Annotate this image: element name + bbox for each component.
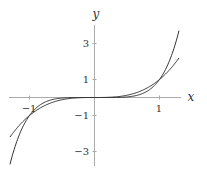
y-tick-label-neg1: −1 — [74, 110, 89, 121]
y-tick-label-1: 1 — [83, 74, 89, 85]
x-tick-label-1: 1 — [156, 103, 162, 114]
y-tick-label-3: 3 — [83, 38, 89, 49]
x-axis-label: x — [188, 90, 195, 104]
y-tick-label-neg3: −3 — [74, 146, 89, 157]
chart: −1 1 3 1 −1 −3 x y — [0, 0, 207, 175]
y-axis-label: y — [92, 7, 100, 21]
